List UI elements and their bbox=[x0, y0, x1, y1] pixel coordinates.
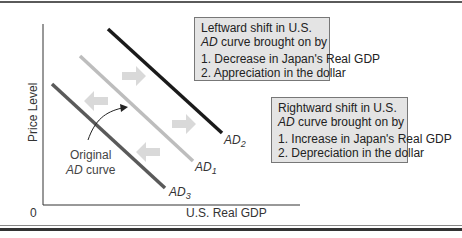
leftward-shift-box: Leftward shift in U.S. AD curve brought … bbox=[194, 17, 330, 81]
rightward-box-title: Rightward shift in U.S. bbox=[278, 101, 401, 115]
arrowhead-icon bbox=[120, 104, 128, 112]
rightward-box-subtitle: AD curve brought on by bbox=[278, 115, 401, 129]
rightward-box-rest: curve brought on by bbox=[295, 115, 404, 129]
label-ad3-sub: 3 bbox=[186, 191, 191, 201]
label-ad1: AD1 bbox=[195, 160, 217, 176]
leftward-box-subtitle: AD curve brought on by bbox=[201, 35, 323, 49]
label-ad3: AD3 bbox=[169, 185, 191, 201]
original-line1: Original bbox=[66, 148, 115, 163]
leftward-box-rest: curve brought on by bbox=[218, 35, 327, 49]
rightward-box-item-1: 1. Increase in Japan's Real GDP bbox=[278, 132, 401, 146]
left-shift-arrow-lower bbox=[136, 142, 160, 162]
origin-label: 0 bbox=[30, 206, 37, 220]
leftward-box-ad: AD bbox=[201, 35, 218, 49]
label-ad1-main: AD bbox=[195, 160, 212, 174]
original-ad-italic: AD bbox=[66, 163, 83, 177]
x-axis-label: U.S. Real GDP bbox=[186, 206, 267, 220]
label-ad3-main: AD bbox=[169, 185, 186, 199]
original-curve-text: curve bbox=[83, 163, 116, 177]
bottom-rule-thin bbox=[0, 225, 462, 226]
label-ad2-main: AD bbox=[224, 133, 241, 147]
original-ad-annotation: Original AD curve bbox=[66, 148, 115, 178]
leftward-box-item-1: 1. Decrease in Japan's Real GDP bbox=[201, 52, 323, 66]
label-ad2: AD2 bbox=[224, 133, 246, 149]
bottom-rule bbox=[0, 228, 462, 231]
rightward-box-ad: AD bbox=[278, 115, 295, 129]
rightward-box-item-2: 2. Depreciation in the dollar bbox=[278, 146, 401, 160]
original-line2: AD curve bbox=[66, 163, 115, 178]
right-shift-arrow-upper bbox=[122, 66, 146, 86]
label-ad1-sub: 1 bbox=[212, 166, 217, 176]
label-ad2-sub: 2 bbox=[241, 139, 246, 149]
right-shift-arrow-lower bbox=[172, 114, 196, 134]
leftward-box-title: Leftward shift in U.S. bbox=[201, 21, 323, 35]
rightward-shift-box: Rightward shift in U.S. AD curve brought… bbox=[271, 97, 408, 163]
left-shift-arrow-upper bbox=[84, 91, 108, 111]
leftward-box-item-2: 2. Appreciation in the dollar bbox=[201, 66, 323, 80]
y-axis-label: Price Level bbox=[26, 83, 40, 142]
